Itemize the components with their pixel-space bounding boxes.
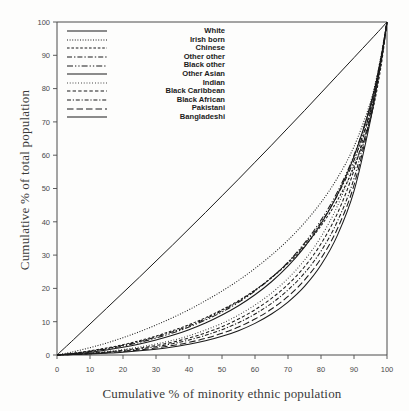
x-tick-label-10: 10 bbox=[86, 365, 94, 374]
y-tick-label-30: 30 bbox=[42, 251, 50, 260]
legend-item-bangladeshi[interactable]: Bangladeshi bbox=[66, 113, 226, 122]
y-tick-label-100: 100 bbox=[37, 18, 50, 27]
y-tick-label-0: 0 bbox=[46, 351, 50, 360]
x-tick-label-70: 70 bbox=[284, 365, 292, 374]
x-tick-label-40: 40 bbox=[185, 365, 193, 374]
legend-line-sample-icon bbox=[66, 79, 108, 87]
x-tick-label-60: 60 bbox=[251, 365, 259, 374]
legend-line-sample-icon bbox=[66, 87, 108, 95]
y-tick-label-50: 50 bbox=[42, 184, 50, 193]
y-tick-label-80: 80 bbox=[42, 84, 50, 93]
x-tick-label-100: 100 bbox=[381, 365, 394, 374]
x-tick-label-0: 0 bbox=[55, 365, 59, 374]
legend-item-label: Bangladeshi bbox=[108, 113, 226, 122]
chart-page: Cumulative % of total population Cumulat… bbox=[0, 0, 409, 411]
legend-line-sample-icon bbox=[66, 62, 108, 70]
y-tick-label-70: 70 bbox=[42, 118, 50, 127]
legend-line-sample-icon bbox=[66, 113, 108, 121]
legend-line-sample-icon bbox=[66, 44, 108, 52]
x-tick-label-50: 50 bbox=[218, 365, 226, 374]
x-tick-label-20: 20 bbox=[119, 365, 127, 374]
legend-item-other-asian[interactable]: Other Asian bbox=[66, 70, 226, 79]
x-tick-label-80: 80 bbox=[317, 365, 325, 374]
x-tick-label-90: 90 bbox=[350, 365, 358, 374]
legend-line-sample-icon bbox=[66, 105, 108, 113]
y-tick-label-20: 20 bbox=[42, 284, 50, 293]
y-tick-label-40: 40 bbox=[42, 218, 50, 227]
y-tick-label-90: 90 bbox=[42, 51, 50, 60]
legend-line-sample-icon bbox=[66, 96, 108, 104]
legend-line-sample-icon bbox=[66, 70, 108, 78]
y-tick-label-60: 60 bbox=[42, 151, 50, 160]
legend-line-sample-icon bbox=[66, 36, 108, 44]
y-tick-label-10: 10 bbox=[42, 318, 50, 327]
legend-line-sample-icon bbox=[66, 27, 108, 35]
legend-line-sample-icon bbox=[66, 53, 108, 61]
chart-legend: WhiteIrish bornChineseOther otherBlack o… bbox=[66, 27, 226, 122]
x-tick-label-30: 30 bbox=[152, 365, 160, 374]
